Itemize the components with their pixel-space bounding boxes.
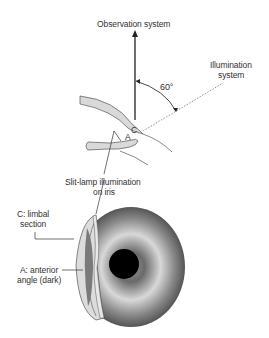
limbal-label-2: section	[20, 219, 46, 229]
point-c-label: C	[131, 125, 137, 135]
illumination-axis	[143, 83, 223, 131]
observation-label: Observation system	[97, 19, 170, 29]
eye-globe	[76, 207, 185, 327]
slit-lamp-diagram	[0, 0, 269, 338]
observation-axis	[132, 30, 138, 120]
slitlamp-label-2: on iris	[93, 187, 115, 197]
illumination-label-1: Illumination	[210, 60, 252, 70]
limbal-leader	[35, 232, 74, 239]
point-a-label: A	[125, 132, 131, 142]
anterior-label-1: A: anterior	[20, 265, 58, 275]
illumination-label-2: system	[218, 70, 244, 80]
pupil	[109, 249, 139, 279]
iris-section	[86, 139, 148, 165]
slitlamp-label-1: Slit-lamp illumination	[65, 177, 141, 187]
angle-pointer	[104, 131, 121, 174]
angle-label: 60°	[160, 82, 173, 92]
anterior-label-2: angle (dark)	[17, 275, 61, 285]
limbal-label-1: C: limbal	[17, 209, 49, 219]
